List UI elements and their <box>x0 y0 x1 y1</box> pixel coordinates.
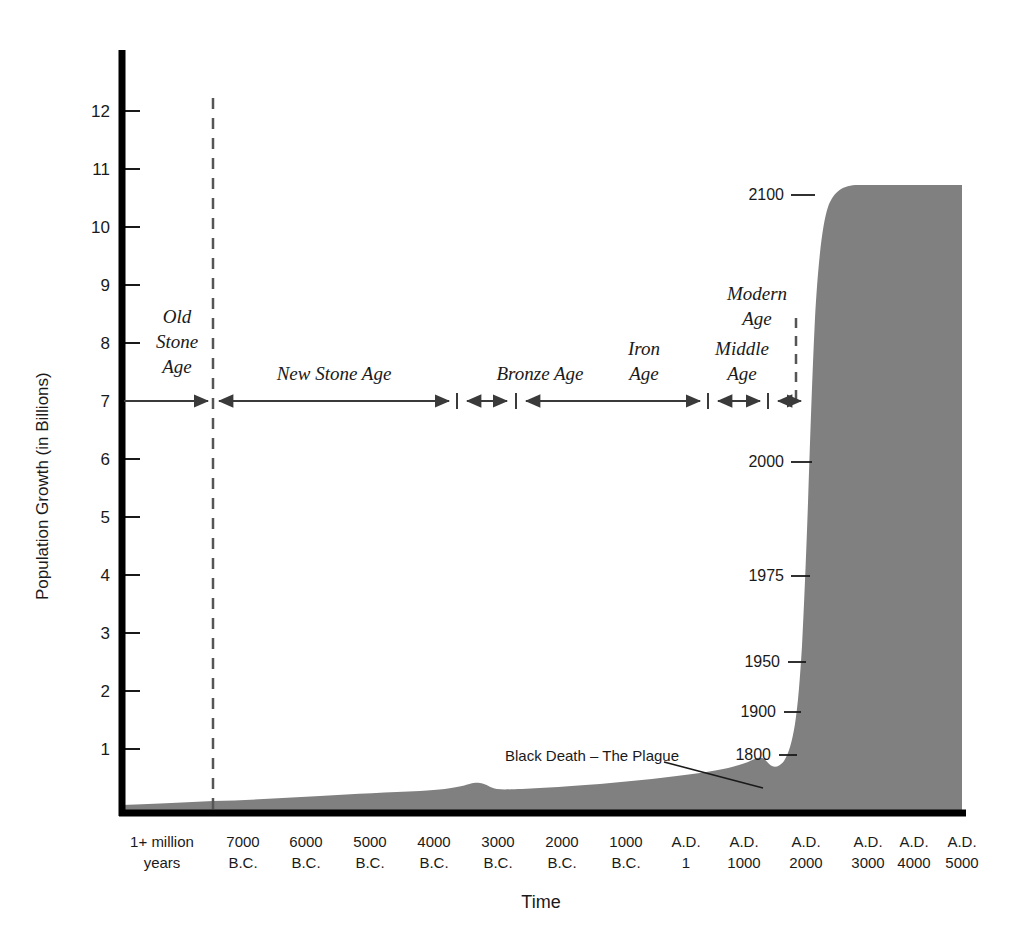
era-label-bronze-age: Bronze Age <box>496 363 583 384</box>
era-label-line: Iron <box>627 338 660 359</box>
year-marker-2100: 2100 <box>748 186 815 203</box>
y-tick-label: 2 <box>101 682 110 701</box>
y-axis-title: Population Growth (in Billions) <box>33 372 52 600</box>
x-tick-label: B.C. <box>483 854 512 871</box>
y-tick-label: 10 <box>91 218 110 237</box>
annotation-label: Black Death – The Plague <box>505 747 679 764</box>
year-marker-label: 2000 <box>748 453 784 470</box>
x-tick-label: A.D. <box>947 833 976 850</box>
x-axis-ticks: 1+ million years 7000 B.C. 6000 B.C. 500… <box>130 833 979 871</box>
population-growth-chart: Population Growth (in Billions) 12 11 10… <box>0 0 1014 948</box>
era-label-line: Middle <box>714 338 769 359</box>
era-label-iron-age: Iron Age <box>627 338 660 384</box>
x-tick-label: 3000 <box>481 833 514 850</box>
x-tick-label: A.D. <box>729 833 758 850</box>
year-marker-1950: 1950 <box>744 653 806 670</box>
y-axis-ticks: 12 11 10 9 8 7 6 5 4 3 2 1 <box>91 102 140 759</box>
x-tick-label: B.C. <box>419 854 448 871</box>
x-tick-label: B.C. <box>355 854 384 871</box>
era-label-line: Modern <box>726 283 787 304</box>
y-tick-label: 9 <box>101 276 110 295</box>
x-tick-label: 2000 <box>789 854 822 871</box>
era-label-line: Age <box>740 308 772 329</box>
population-area-fill <box>122 185 962 812</box>
y-tick-label: 7 <box>101 392 110 411</box>
x-tick-label: A.D. <box>899 833 928 850</box>
x-tick-label: 3000 <box>851 854 884 871</box>
x-tick-label: 1000 <box>609 833 642 850</box>
x-tick-label: years <box>144 854 181 871</box>
era-label-line: Stone <box>156 331 198 352</box>
x-tick-label: A.D. <box>671 833 700 850</box>
y-tick-label: 6 <box>101 450 110 469</box>
year-marker-label: 1950 <box>744 653 780 670</box>
x-tick-label: 2000 <box>545 833 578 850</box>
era-label-modern-age: Modern Age <box>726 283 787 329</box>
y-tick-label: 12 <box>91 102 110 121</box>
y-tick-label: 1 <box>101 740 110 759</box>
x-tick-label: 1000 <box>727 854 760 871</box>
year-marker-label: 2100 <box>748 186 784 203</box>
era-label-old-stone-age: Old Stone Age <box>156 306 198 377</box>
x-tick-label: B.C. <box>291 854 320 871</box>
year-marker-label: 1975 <box>748 567 784 584</box>
y-tick-label: 5 <box>101 508 110 527</box>
era-label-line: Age <box>160 356 192 377</box>
year-marker-label: 1800 <box>735 746 771 763</box>
year-marker-2000: 2000 <box>748 453 812 470</box>
x-tick-label: B.C. <box>547 854 576 871</box>
x-tick-label: 5000 <box>945 854 978 871</box>
y-tick-label: 11 <box>92 160 110 179</box>
x-tick-label: 1+ million <box>130 833 194 850</box>
era-label-line: Old <box>163 306 192 327</box>
x-tick-label: 7000 <box>226 833 259 850</box>
x-tick-label: 4000 <box>417 833 450 850</box>
era-label-middle-age: Middle Age <box>714 338 769 384</box>
x-tick-label: B.C. <box>611 854 640 871</box>
y-tick-label: 3 <box>101 624 110 643</box>
y-tick-label: 8 <box>101 334 110 353</box>
y-tick-label: 4 <box>101 566 110 585</box>
x-tick-label: A.D. <box>853 833 882 850</box>
year-marker-1975: 1975 <box>748 567 810 584</box>
x-tick-label: 5000 <box>353 833 386 850</box>
year-marker-1900: 1900 <box>740 703 801 720</box>
x-tick-label: 6000 <box>289 833 322 850</box>
x-tick-label: A.D. <box>791 833 820 850</box>
era-label-line: Age <box>627 363 659 384</box>
x-tick-label: 4000 <box>897 854 930 871</box>
era-label-new-stone-age: New Stone Age <box>276 363 392 384</box>
x-tick-label: 1 <box>682 854 690 871</box>
year-marker-label: 1900 <box>740 703 776 720</box>
era-timeline <box>124 393 801 409</box>
era-label-line: Age <box>725 363 757 384</box>
chart-canvas: Population Growth (in Billions) 12 11 10… <box>0 0 1014 948</box>
x-axis-title: Time <box>521 892 560 912</box>
x-tick-label: B.C. <box>228 854 257 871</box>
